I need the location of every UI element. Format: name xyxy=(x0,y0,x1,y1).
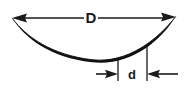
diagram-canvas: D d xyxy=(0,0,188,89)
width-dimension-group: D xyxy=(12,9,176,26)
diagram-root: D d xyxy=(0,0,188,89)
width-dimension-label: D xyxy=(86,9,97,26)
width-right-arrowhead-icon xyxy=(161,12,176,21)
depth-dimension-label: d xyxy=(128,67,136,82)
